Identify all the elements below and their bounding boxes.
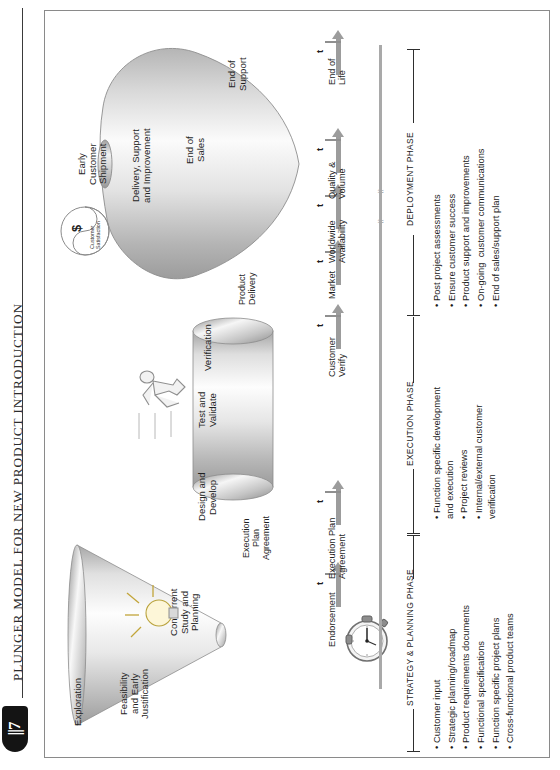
milestone-tick [325, 315, 341, 317]
runner-icon [133, 351, 195, 455]
bracket-cap [407, 533, 420, 534]
phase-label: EXECUTION PHASE [406, 383, 415, 469]
cylinder-stage-test-validate: Test and Validate [197, 381, 218, 439]
bullet-marker: • [431, 301, 442, 307]
list-item: • Functional specifications [475, 541, 488, 749]
cylinder-stage-verification: Verification [203, 317, 214, 379]
page-title: PLUNGER MODEL FOR NEW PRODUCT INTRODUCTI… [5, 9, 31, 729]
balloon-stage-delivery-support: Delivery, Support and Improvement [131, 111, 152, 221]
bracket-cap [407, 49, 420, 50]
milestone-time-symbol: t [315, 195, 326, 207]
bracket-cap [407, 315, 420, 316]
balloon-stage-early-customer-shipment: Early Customer Shipment [77, 121, 109, 207]
list-item: • Product support and improvements [460, 95, 473, 307]
bullet-marker: • [431, 513, 442, 519]
milestone-tick [325, 41, 341, 43]
milestone-label: Endorsement [327, 577, 337, 647]
bullet-group-strategy-planning: • Customer input • Strategic planning/ro… [431, 541, 517, 749]
connector-execution-plan-agreement: Execution Plan Agreement [241, 501, 271, 575]
bullet-marker: • [504, 743, 515, 749]
bullet-marker: • [446, 301, 457, 307]
list-item: • Strategic planning/roadmap [446, 541, 459, 749]
bullet-marker: • [475, 301, 486, 307]
bullet-group-deployment: • Post project assessments • Ensure cust… [431, 95, 502, 307]
milestone-time-symbol: t [315, 491, 326, 503]
lightbulb-icon [123, 581, 185, 651]
milestone-label: End of Life [327, 45, 348, 85]
milestone-tick [325, 139, 341, 141]
bullet-marker: • [458, 513, 469, 519]
list-item: • End of sales/support plan [490, 95, 503, 307]
milestone-label: Execution Plan Agreement [327, 495, 348, 579]
list-item: • Function specific development and exec… [431, 333, 456, 519]
milestone-label: Worldwide Availability [327, 199, 348, 263]
list-item: • Function specific project plans [490, 541, 503, 749]
list-item: • Post project assessments [431, 95, 444, 307]
bullet-marker: • [490, 743, 501, 749]
milestone-label: Quality & Volume [327, 143, 348, 199]
bracket-cap [407, 535, 420, 536]
book-spine: PLUNGER MODEL FOR NEW PRODUCT INTRODUCTI… [0, 0, 36, 770]
list-item: • On-going customer communications [475, 95, 488, 307]
bullet-marker: • [431, 743, 442, 749]
publisher-logo-glyph: ||7 [0, 716, 38, 742]
list-item: • Ensure customer success [446, 95, 459, 307]
balloon-stage-end-of-support: End of Support [227, 43, 248, 105]
milestone-time-symbol: t [315, 139, 326, 151]
list-item: • Customer input [431, 541, 444, 749]
bullet-marker: • [475, 743, 486, 749]
bullet-marker: • [490, 301, 501, 307]
milestone-time-symbol: t [315, 41, 326, 53]
milestone-time-symbol: t [315, 573, 326, 585]
dollar-symbol: $ [69, 225, 84, 232]
list-item: • Cross-functional product teams [504, 541, 517, 749]
axis-break-marker: ≈ [375, 187, 386, 196]
bullet-marker: • [460, 743, 471, 749]
bracket-cap [407, 751, 420, 752]
connector-product-delivery: Product Delivery [237, 263, 257, 315]
stopwatch-icon [339, 611, 395, 673]
publisher-logo: ||7 [2, 706, 28, 752]
customer-satisfaction-icon: $ Customer Satisfaction [57, 201, 113, 265]
list-item: • Internal/external customer verificatio… [473, 333, 498, 519]
figure-panel: Early Customer Shipment Delivery, Suppor… [44, 10, 550, 758]
bullet-group-execution: • Function specific development and exec… [431, 333, 498, 519]
cone-stage-feasibility: Feasibility and Early Justification [119, 655, 151, 733]
cone-stage-exploration: Exploration [73, 671, 84, 733]
customer-satisfaction-label: Customer Satisfaction [89, 215, 101, 249]
bullet-marker: • [473, 513, 484, 519]
milestone-tick [325, 491, 341, 493]
phase-label: STRATEGY & PLANNING PHASE [406, 579, 415, 709]
list-item: • Product requirements documents [460, 541, 473, 749]
figure-page: PLUNGER MODEL FOR NEW PRODUCT INTRODUCTI… [0, 0, 560, 770]
phase-label: DEPLOYMENT PHASE [406, 123, 415, 235]
axis-break-marker: ≈ [375, 217, 386, 226]
milestone-label: Customer Verify [327, 319, 348, 377]
timeline-axis [379, 45, 382, 689]
milestone-time-symbol: t [315, 315, 326, 327]
list-item: • Project reviews [458, 333, 471, 519]
balloon-stage-end-of-sales: End of Sales [185, 119, 206, 181]
bullet-marker: • [460, 301, 471, 307]
milestone-time-symbol: t [315, 251, 326, 263]
bullet-marker: • [446, 743, 457, 749]
